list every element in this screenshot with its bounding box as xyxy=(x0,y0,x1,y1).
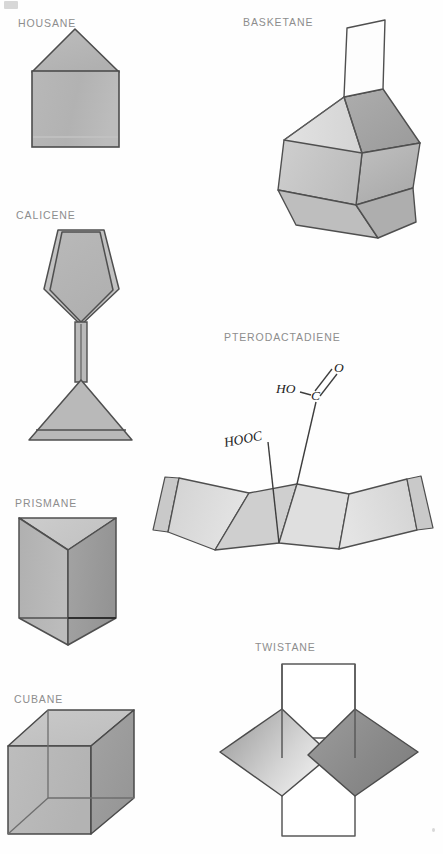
basketane-upright-flap xyxy=(344,20,385,97)
figure-prismane xyxy=(0,505,150,665)
ptero-label-hooc: HOOC xyxy=(222,428,264,450)
label-pterodactadiene: PTERODACTADIENE xyxy=(224,331,341,343)
figure-calicene xyxy=(0,222,150,452)
figure-twistane xyxy=(218,650,443,850)
figure-plate: 28 HOUSANE BASKETANE xyxy=(0,0,443,854)
housane-roof-face xyxy=(32,29,119,72)
figure-pterodactadiene: HO C O HOOC xyxy=(143,350,443,565)
label-calicene: CALICENE xyxy=(16,209,76,221)
cubane-front-face xyxy=(8,746,91,834)
calicene-pentagon-inner xyxy=(50,232,113,322)
ptero-right-wing xyxy=(339,479,417,549)
ptero-ho-bond xyxy=(300,392,311,395)
ptero-co-double-a xyxy=(320,374,337,396)
figure-cubane xyxy=(0,700,170,850)
housane-body-face xyxy=(32,71,119,147)
figure-basketane xyxy=(238,0,443,235)
calicene-triangle-outer xyxy=(29,380,132,440)
ptero-bond-right-cooh xyxy=(297,402,316,484)
ptero-label-ho: HO xyxy=(275,381,296,396)
figure-housane xyxy=(0,0,160,160)
ptero-label-c: C xyxy=(311,388,321,403)
ptero-label-o: O xyxy=(334,360,344,375)
